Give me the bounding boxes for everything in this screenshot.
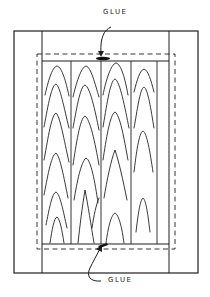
bottom-glue-arrow (88, 249, 101, 281)
grain-board-3 (103, 63, 129, 243)
top-glue-label: GLUE (103, 8, 128, 16)
top-glue-bead-icon (96, 57, 110, 61)
grain-board-2 (73, 66, 99, 243)
grain-board-1 (44, 66, 69, 243)
top-glue-callout (96, 27, 111, 60)
glued-panel-diagram (0, 0, 210, 297)
grain-board-4 (134, 69, 154, 232)
bottom-glue-label: GLUE (108, 276, 133, 284)
